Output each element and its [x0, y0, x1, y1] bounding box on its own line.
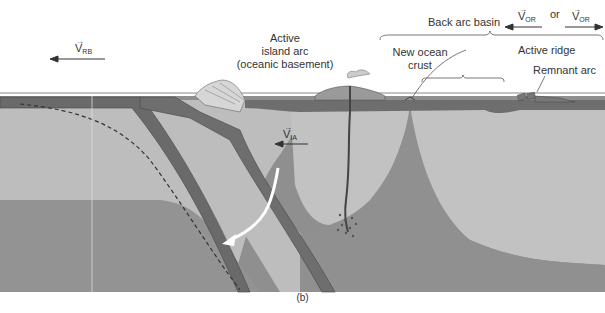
v-or-right-label: →VOR	[572, 10, 590, 23]
remnant-arc-leader	[537, 76, 545, 92]
v-rb-label: →VRB	[75, 42, 92, 55]
v-ia-label: →VIA	[283, 128, 297, 141]
new-ocean-crust-brace	[422, 75, 504, 82]
or-label: or	[550, 8, 560, 21]
back-arc-basin-label: Back arc basin	[428, 16, 500, 29]
active-ridge-label: Active ridge	[518, 44, 575, 57]
volcanic-plume	[347, 70, 370, 78]
v-or-left-label: →VOR	[518, 10, 536, 23]
new-ocean-crust-label: New ocean crust	[385, 46, 455, 72]
figure-caption: (b)	[0, 292, 605, 303]
active-island-arc-label: Active island arc (oceanic basement)	[235, 32, 335, 71]
remnant-arc-label: Remnant arc	[533, 64, 596, 77]
back-arc-basin-brace	[380, 31, 603, 40]
